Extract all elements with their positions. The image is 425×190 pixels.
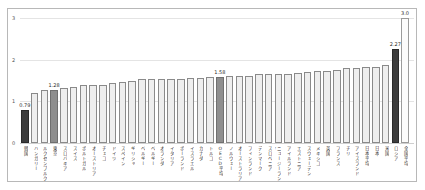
x-tick-label: デンマーク bbox=[256, 146, 262, 182]
bar bbox=[21, 110, 29, 143]
data-label: 1.28 bbox=[48, 82, 59, 88]
bar bbox=[284, 74, 292, 143]
bar-chart: 0123韓国ハンガリールクセンブルク東京スロバキアスイスポルトガルオーストリアチ… bbox=[0, 0, 425, 190]
bar bbox=[177, 79, 185, 143]
x-tick-label: ハンガリー bbox=[32, 146, 38, 182]
bar bbox=[382, 65, 390, 143]
bar bbox=[236, 76, 244, 143]
y-tick-label: 2 bbox=[12, 57, 15, 63]
x-tick-label: ギリシャ bbox=[129, 146, 135, 182]
bar bbox=[401, 18, 409, 143]
bar bbox=[31, 93, 39, 143]
bar bbox=[333, 70, 341, 143]
x-tick-label: イタリア bbox=[168, 146, 174, 182]
x-tick-label: ポルトガル bbox=[80, 146, 86, 182]
bar bbox=[148, 79, 156, 143]
x-tick-label: 英国 bbox=[324, 146, 330, 182]
x-tick-label: チリ bbox=[344, 146, 350, 182]
data-label: 3.0 bbox=[401, 10, 409, 16]
gridline bbox=[20, 60, 414, 61]
x-tick-label: エストニア bbox=[295, 146, 301, 182]
x-tick-label: スウェーデン bbox=[305, 146, 311, 182]
x-tick-label: ポーランド bbox=[178, 146, 184, 182]
x-tick-label: スペイン bbox=[119, 146, 125, 182]
bar bbox=[304, 72, 312, 143]
y-tick-label: 3 bbox=[12, 15, 15, 21]
x-tick-label: アイスランド bbox=[353, 146, 359, 182]
y-tick-label: 0 bbox=[12, 140, 15, 146]
x-tick-label: 東京 bbox=[51, 146, 57, 182]
x-tick-label: ルクセンブルク bbox=[41, 146, 47, 182]
x-tick-label: ロシア bbox=[392, 146, 398, 182]
x-tick-label: スロバキア bbox=[61, 146, 67, 182]
bar bbox=[275, 74, 283, 143]
bar bbox=[265, 74, 273, 143]
x-tick-label: 全国平均 bbox=[402, 146, 408, 182]
x-tick-label: オランダ bbox=[158, 146, 164, 182]
y-tick-label: 1 bbox=[12, 98, 15, 104]
x-tick-label: OECD平均 bbox=[217, 146, 223, 182]
x-tick-label: カナダ bbox=[197, 146, 203, 182]
bar bbox=[294, 73, 302, 143]
bar bbox=[226, 76, 234, 143]
x-tick-label: フランス bbox=[334, 146, 340, 182]
data-label: 1.58 bbox=[214, 69, 225, 75]
x-tick-label: ドイツ bbox=[110, 146, 116, 182]
bar bbox=[158, 79, 166, 143]
data-label: 0.79 bbox=[19, 102, 30, 108]
bar bbox=[89, 85, 97, 143]
x-tick-label: ベルギー bbox=[139, 146, 145, 182]
bar bbox=[216, 77, 224, 143]
x-tick-label: オーストラリア bbox=[236, 146, 242, 182]
x-tick-label: オーストリア bbox=[90, 146, 96, 182]
bar bbox=[343, 68, 351, 143]
bar bbox=[167, 79, 175, 143]
bar bbox=[109, 83, 117, 143]
bar bbox=[353, 68, 361, 143]
x-tick-label: メキシコ bbox=[314, 146, 320, 182]
bar bbox=[362, 67, 370, 143]
bar bbox=[392, 49, 400, 143]
x-tick-label: スロベニア bbox=[266, 146, 272, 182]
x-tick-label: 米国 bbox=[383, 146, 389, 182]
bar bbox=[119, 82, 127, 143]
bar bbox=[138, 79, 146, 143]
x-tick-label: ノルウェー bbox=[227, 146, 233, 182]
bar bbox=[314, 71, 322, 143]
x-tick-label: 日本 bbox=[373, 146, 379, 182]
bar bbox=[255, 74, 263, 143]
bar bbox=[50, 90, 58, 143]
x-tick-label: ベルギー bbox=[149, 146, 155, 182]
x-tick-label: スイス bbox=[71, 146, 77, 182]
bar bbox=[128, 81, 136, 143]
data-label: 2.27 bbox=[390, 41, 401, 47]
x-tick-label: 日本平均 bbox=[363, 146, 369, 182]
x-tick-label: チェコ bbox=[100, 146, 106, 182]
bar bbox=[372, 67, 380, 143]
bar bbox=[187, 78, 195, 143]
bar bbox=[197, 78, 205, 143]
x-tick-label: ニュージーランド bbox=[275, 146, 281, 182]
bar bbox=[99, 85, 107, 143]
bar bbox=[206, 77, 214, 143]
bar bbox=[245, 76, 253, 143]
x-tick-label: フィンランド bbox=[246, 146, 252, 182]
bar bbox=[80, 85, 88, 143]
x-tick-label: イスラエル bbox=[188, 146, 194, 182]
gridline bbox=[20, 143, 414, 144]
bar bbox=[323, 71, 331, 143]
x-tick-label: 韓国 bbox=[22, 146, 28, 182]
bar bbox=[70, 87, 78, 143]
x-tick-label: アイルランド bbox=[285, 146, 291, 182]
bar bbox=[41, 90, 49, 143]
gridline bbox=[20, 18, 414, 19]
x-tick-label: トルコ bbox=[207, 146, 213, 182]
bar bbox=[60, 88, 68, 143]
